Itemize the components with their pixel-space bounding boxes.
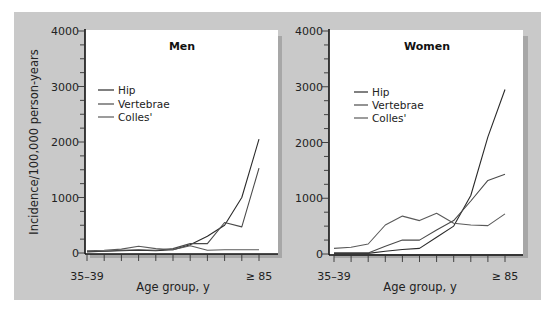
legend-label-vertebrae: Vertebrae [118,98,170,110]
x-tick-last: ≥ 85 [246,270,273,283]
panel-women: Women Hip Vertebrae Colles' 010002000300… [295,25,528,294]
y-tick-label: 1000 [295,192,323,205]
y-tick-label: 2000 [295,137,323,150]
y-tick-label: 4000 [295,25,323,38]
x-axis-title: Age group, y [383,280,457,294]
y-tick-label: 0 [316,248,323,261]
y-tick-label: 3000 [295,81,323,94]
legend-label-colles: Colles' [372,112,406,124]
y-axis-title: Incidence/100,000 person-years [27,49,41,234]
legend-label-hip: Hip [118,84,136,96]
fracture-incidence-chart: Incidence/100,000 person-years Men Hip V… [0,0,549,311]
legend-label-vertebrae: Vertebrae [372,99,424,111]
plot-area [329,30,523,254]
y-tick-label: 0 [72,247,79,260]
x-tick-last: ≥ 85 [492,270,519,283]
panel-title: Men [169,40,195,53]
y-tick-label: 4000 [51,25,79,38]
legend-label-hip: Hip [372,86,390,98]
panel-men: Men Hip Vertebrae Colles' 01000200030004… [51,25,282,294]
plot-area [85,30,278,254]
x-tick-first: 35–39 [317,270,351,283]
y-tick-label: 3000 [51,81,79,94]
y-tick-label: 1000 [51,192,79,205]
legend-label-colles: Colles' [118,111,152,123]
x-axis-title: Age group, y [136,280,210,294]
y-tick-label: 2000 [51,136,79,149]
panel-title: Women [404,40,450,53]
x-tick-first: 35–39 [70,270,104,283]
